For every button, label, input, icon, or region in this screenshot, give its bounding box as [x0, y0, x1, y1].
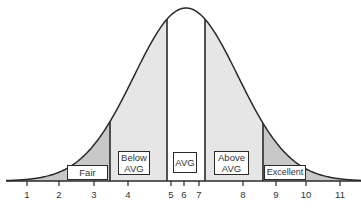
- label-fair: Fair: [67, 165, 108, 180]
- label-below-line2: AVG: [124, 163, 143, 174]
- band-excellent: [263, 0, 361, 181]
- tick-label-11: 11: [335, 189, 345, 200]
- tick-label-5: 5: [168, 189, 173, 200]
- bell-curve-diagram: Fair Below AVG AVG Above AVG Excellent 1…: [0, 0, 361, 216]
- label-avg: AVG: [173, 152, 197, 173]
- label-excellent: Excellent: [264, 165, 306, 180]
- label-avg-text: AVG: [175, 157, 194, 168]
- tick-label-3: 3: [91, 189, 96, 200]
- label-fair-text: Fair: [79, 167, 95, 178]
- label-below-avg: Below AVG: [118, 151, 150, 175]
- tick-label-8: 8: [240, 189, 245, 200]
- tick-label-6: 6: [181, 189, 186, 200]
- band-fair: [0, 0, 110, 181]
- tick-label-1: 1: [24, 189, 29, 200]
- tick-label-7: 7: [196, 189, 201, 200]
- tick-label-4: 4: [125, 189, 130, 200]
- tick-label-10: 10: [301, 189, 312, 200]
- label-above-avg: Above AVG: [214, 151, 249, 175]
- label-above-line2: AVG: [222, 163, 241, 174]
- tick-label-2: 2: [56, 189, 61, 200]
- label-above-line1: Above: [218, 152, 245, 163]
- bell-curve-svg: [0, 0, 361, 216]
- tick-label-9: 9: [273, 189, 278, 200]
- label-below-line1: Below: [121, 152, 147, 163]
- label-excellent-text: Excellent: [267, 167, 304, 178]
